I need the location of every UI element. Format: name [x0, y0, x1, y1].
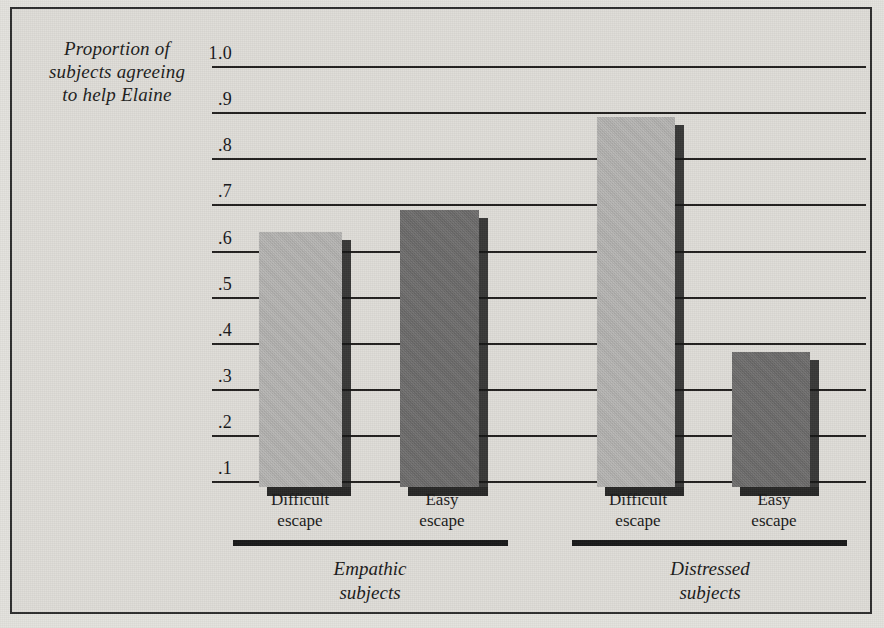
group-label-line2: subjects	[240, 581, 500, 605]
condition-label-line1: Difficult	[220, 489, 380, 510]
gridline-0.7	[212, 204, 866, 206]
figure-frame: Proportion of subjects agreeing to help …	[10, 7, 872, 614]
ytick-label-0.4: .4	[198, 320, 232, 341]
condition-label-distressed-easy: Easy escape	[694, 489, 854, 531]
group-label-line2: subjects	[580, 581, 840, 605]
condition-label-line2: escape	[694, 510, 854, 531]
gridline-0.8	[212, 158, 866, 160]
bar-shadow-right	[342, 240, 351, 487]
ytick-label-0.1: .1	[198, 458, 232, 479]
condition-label-line1: Easy	[362, 489, 522, 510]
plot-area: 1.0 .9 .8 .7 .6 .5 .4 .3 .2 .1	[198, 29, 866, 499]
figure-page: Proportion of subjects agreeing to help …	[0, 0, 884, 628]
bar-body	[259, 232, 342, 487]
condition-label-line2: escape	[362, 510, 522, 531]
condition-label-line2: escape	[220, 510, 380, 531]
ytick-label-0.3: .3	[198, 366, 232, 387]
group-label-line1: Empathic	[240, 557, 500, 581]
ytick-label-0.8: .8	[198, 135, 232, 156]
bar-distressed-easy	[732, 352, 810, 487]
condition-label-line1: Easy	[694, 489, 854, 510]
condition-label-empathic-easy: Easy escape	[362, 489, 522, 531]
group-rule-empathic	[233, 540, 508, 546]
ytick-label-0.9: .9	[198, 89, 232, 110]
bar-distressed-difficult	[597, 117, 675, 487]
y-axis-caption: Proportion of subjects agreeing to help …	[42, 37, 192, 106]
ytick-label-0.7: .7	[198, 181, 232, 202]
ytick-label-0.6: .6	[198, 228, 232, 249]
bar-body	[732, 352, 810, 487]
bar-shadow-right	[675, 125, 684, 487]
group-label-distressed: Distressed subjects	[580, 557, 840, 605]
bar-body	[400, 210, 479, 487]
bar-empathic-easy	[400, 210, 479, 487]
bar-shadow-right	[479, 218, 488, 487]
ytick-label-1.0: 1.0	[198, 43, 232, 64]
group-rule-distressed	[572, 540, 847, 546]
bar-shadow-right	[810, 360, 819, 487]
gridline-0.9	[212, 112, 866, 114]
gridline-1.0	[212, 66, 866, 68]
ytick-label-0.2: .2	[198, 412, 232, 433]
bar-empathic-difficult	[259, 232, 342, 487]
group-label-empathic: Empathic subjects	[240, 557, 500, 605]
group-label-line1: Distressed	[580, 557, 840, 581]
ytick-label-0.5: .5	[198, 274, 232, 295]
bar-body	[597, 117, 675, 487]
condition-label-empathic-difficult: Difficult escape	[220, 489, 380, 531]
